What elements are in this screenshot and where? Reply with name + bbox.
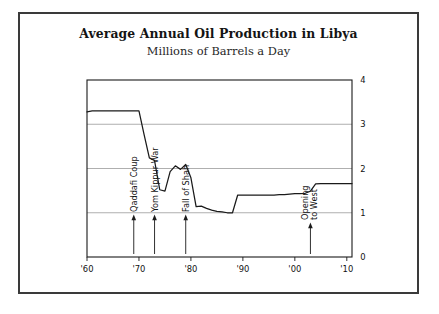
annotation-label: Opening — [300, 185, 310, 220]
y-tick-label: 0 — [360, 252, 365, 262]
annotation-arrowhead — [308, 223, 313, 229]
x-axis-ticks: '60'70'80'90'00'10 — [81, 257, 354, 274]
x-tick-label: '00 — [288, 264, 301, 274]
annotations-layer: Qaddafi CoupYom Kippur WarFall of ShahOp… — [129, 147, 319, 254]
y-axis-ticks: 01234 — [360, 75, 365, 262]
annotation-arrowhead — [131, 215, 136, 221]
chart-annotation: Fall of Shah — [181, 165, 191, 254]
chart-plot-area: Qaddafi CoupYom Kippur WarFall of ShahOp… — [20, 14, 417, 292]
y-tick-label: 3 — [360, 119, 365, 129]
chart-figure: Average Annual Oil Production in Libya M… — [18, 12, 419, 294]
chart-annotation: Openingto West — [300, 185, 320, 254]
y-tick-label: 2 — [360, 164, 365, 174]
x-tick-label: '10 — [340, 264, 353, 274]
annotation-label: Fall of Shah — [181, 165, 191, 212]
x-tick-label: '90 — [236, 264, 249, 274]
y-tick-label: 1 — [360, 208, 365, 218]
annotation-label: to West — [309, 188, 319, 220]
chart-annotation: Qaddafi Coup — [129, 156, 139, 254]
annotation-arrowhead — [183, 215, 188, 221]
x-tick-label: '60 — [81, 264, 94, 274]
x-tick-label: '80 — [184, 264, 197, 274]
annotation-arrowhead — [152, 215, 157, 221]
x-tick-label: '70 — [132, 264, 145, 274]
y-tick-label: 4 — [360, 75, 365, 85]
annotation-label: Qaddafi Coup — [129, 156, 139, 212]
